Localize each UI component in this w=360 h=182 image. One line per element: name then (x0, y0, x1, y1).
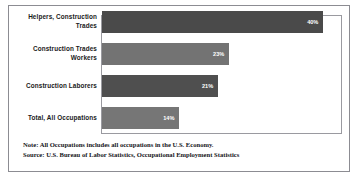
bar[interactable]: 23% (102, 43, 229, 65)
bar-value-label: 14% (163, 115, 179, 121)
chart-row: Helpers, Construction Trades 40% (9, 6, 351, 38)
bar-track: 23% (102, 38, 351, 70)
chart-row: Total, All Occupations 14% (9, 102, 351, 134)
chart-row: Construction Laborers 21% (9, 70, 351, 102)
chart-row: Construction Trades Workers 23% (9, 38, 351, 70)
category-label: Construction Laborers (9, 82, 97, 91)
bar[interactable]: 14% (102, 107, 179, 129)
bar-value-label: 40% (307, 19, 323, 25)
bar[interactable]: 21% (102, 75, 218, 97)
chart-figure: Helpers, Construction Trades 40% Constru… (8, 5, 350, 172)
bar-track: 40% (102, 6, 351, 38)
bar-value-label: 21% (202, 83, 218, 89)
chart-footnotes: Note: All Occupations includes all occup… (23, 140, 343, 160)
category-label: Helpers, Construction Trades (9, 13, 97, 30)
category-label: Construction Trades Workers (9, 45, 97, 62)
source-text: Source: U.S. Bureau of Labor Statistics,… (23, 150, 343, 160)
bar-track: 14% (102, 102, 351, 134)
bar[interactable]: 40% (102, 11, 323, 33)
note-text: Note: All Occupations includes all occup… (23, 140, 343, 150)
category-label: Total, All Occupations (9, 114, 97, 123)
bar-value-label: 23% (213, 51, 229, 57)
bar-track: 21% (102, 70, 351, 102)
bar-chart: Helpers, Construction Trades 40% Constru… (9, 6, 351, 134)
